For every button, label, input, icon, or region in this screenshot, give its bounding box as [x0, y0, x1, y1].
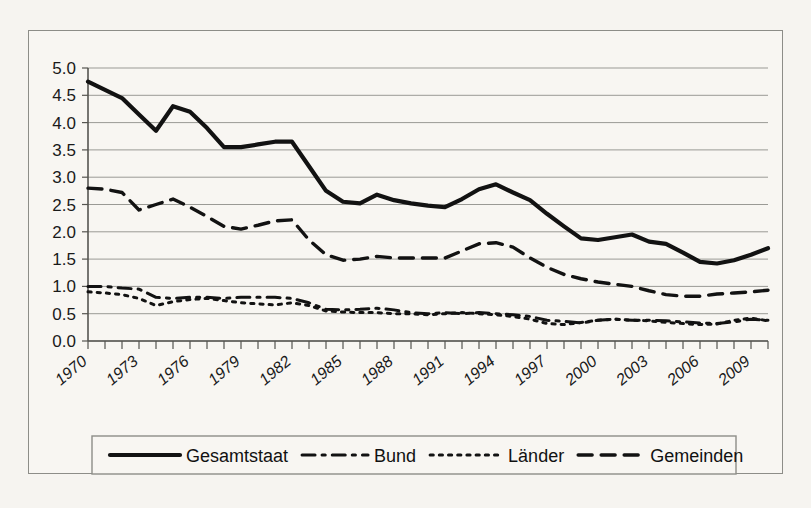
chart-figure: 5.04.54.03.53.02.52.01.51.00.50.0 197019… [0, 0, 811, 508]
chart-outer-frame [28, 30, 783, 474]
